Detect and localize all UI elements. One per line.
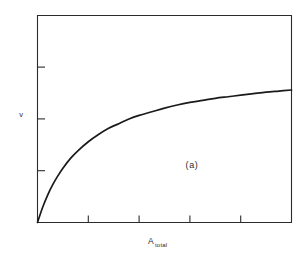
y-axis-label: v (19, 110, 23, 119)
saturation-curve (38, 90, 292, 222)
x-axis-label-subscript: total (155, 242, 167, 248)
x-axis-ticks (88, 216, 240, 223)
x-axis-label: A total (148, 236, 167, 248)
plot-area: v A total (a) (0, 0, 304, 255)
panel-annotation: (a) (186, 160, 199, 170)
x-axis-label-main: A (148, 236, 154, 246)
y-axis-ticks (38, 67, 46, 171)
plot-frame (38, 16, 292, 223)
figure-container: v A total (a) (0, 0, 304, 255)
